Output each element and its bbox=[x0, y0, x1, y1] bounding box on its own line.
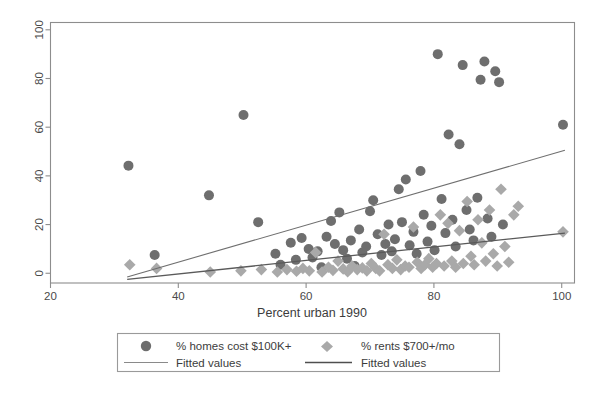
legend-label-fitted-rents: Fitted values bbox=[361, 357, 426, 369]
legend-label-fitted-homes: Fitted values bbox=[176, 357, 241, 369]
data-point-circle bbox=[238, 110, 248, 120]
data-point-circle bbox=[368, 195, 378, 205]
data-point-circle bbox=[338, 245, 348, 255]
y-tick-label: 40 bbox=[34, 169, 46, 182]
data-point-circle bbox=[394, 184, 404, 194]
data-point-circle bbox=[419, 210, 429, 220]
data-point-circle bbox=[415, 166, 425, 176]
data-point-circle bbox=[270, 249, 280, 259]
scatter-plot-figure: 020406080100 20406080100 Percent urban 1… bbox=[0, 0, 591, 393]
data-point-circle bbox=[490, 66, 500, 76]
data-point-circle bbox=[472, 193, 482, 203]
data-point-circle bbox=[433, 49, 443, 59]
y-tick-label: 0 bbox=[34, 270, 46, 276]
data-point-circle bbox=[444, 129, 454, 139]
x-tick-label: 100 bbox=[552, 290, 571, 302]
data-point-circle bbox=[479, 56, 489, 66]
data-point-circle bbox=[426, 221, 436, 231]
y-tick-label: 60 bbox=[34, 121, 46, 134]
x-tick-label: 80 bbox=[428, 290, 441, 302]
data-point-circle bbox=[423, 237, 433, 247]
data-point-circle bbox=[330, 239, 340, 249]
data-point-circle bbox=[465, 224, 475, 234]
data-point-circle bbox=[558, 120, 568, 130]
data-point-circle bbox=[451, 241, 461, 251]
data-point-circle bbox=[476, 75, 486, 85]
chart-canvas: 020406080100 20406080100 Percent urban 1… bbox=[0, 0, 591, 393]
data-point-circle bbox=[498, 220, 508, 230]
y-tick-label: 100 bbox=[34, 20, 46, 39]
x-tick-label: 60 bbox=[300, 290, 313, 302]
circle-marker-icon bbox=[141, 341, 151, 351]
data-point-circle bbox=[291, 255, 301, 265]
data-point-circle bbox=[397, 217, 407, 227]
data-point-circle bbox=[354, 224, 364, 234]
data-point-circle bbox=[483, 213, 493, 223]
x-tick-label: 20 bbox=[44, 290, 57, 302]
x-tick-label: 40 bbox=[172, 290, 185, 302]
data-point-circle bbox=[440, 228, 450, 238]
data-point-circle bbox=[297, 233, 307, 243]
legend-label-rents: % rents $700+/mo bbox=[361, 340, 455, 352]
data-point-circle bbox=[322, 232, 332, 242]
data-point-circle bbox=[384, 220, 394, 230]
data-point-circle bbox=[437, 194, 447, 204]
data-point-circle bbox=[494, 77, 504, 87]
data-point-circle bbox=[150, 250, 160, 260]
data-point-circle bbox=[204, 190, 214, 200]
data-point-circle bbox=[401, 175, 411, 185]
data-point-circle bbox=[286, 238, 296, 248]
data-point-circle bbox=[253, 217, 263, 227]
data-point-circle bbox=[458, 60, 468, 70]
x-axis-title: Percent urban 1990 bbox=[257, 306, 367, 320]
data-point-circle bbox=[361, 241, 371, 251]
data-point-circle bbox=[454, 139, 464, 149]
y-tick-label: 80 bbox=[34, 72, 46, 85]
data-point-circle bbox=[123, 161, 133, 171]
data-point-circle bbox=[346, 235, 356, 245]
data-point-circle bbox=[469, 235, 479, 245]
legend-label-homes: % homes cost $100K+ bbox=[176, 340, 292, 352]
y-tick-label: 20 bbox=[34, 218, 46, 231]
data-point-circle bbox=[390, 234, 400, 244]
